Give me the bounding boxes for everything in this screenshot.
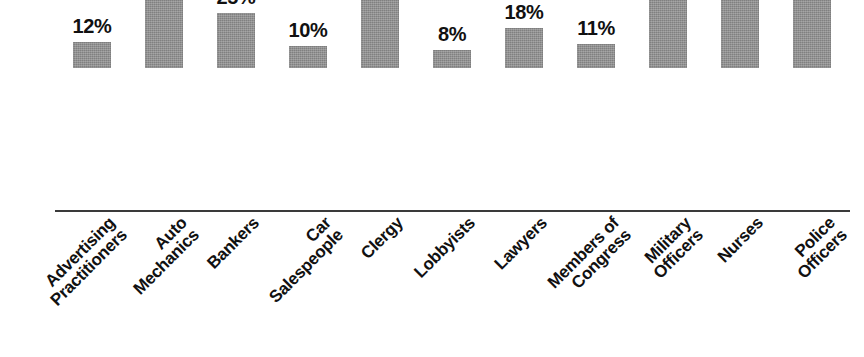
bar-group[interactable]: 42%: [361, 0, 399, 68]
bar[interactable]: [577, 44, 615, 68]
plot-area: 12%32%25%10%42%8%18%11%71%82%56%: [0, 0, 864, 214]
bar-value-label: 25%: [217, 0, 256, 7]
bar-value-label: 18%: [505, 2, 544, 22]
bar[interactable]: [361, 0, 399, 68]
bar-group[interactable]: 32%: [145, 0, 183, 68]
bar[interactable]: [217, 13, 255, 68]
bar-group[interactable]: 71%: [649, 0, 687, 68]
bar-value-label: 12%: [73, 16, 112, 36]
bar-group[interactable]: 8%: [433, 16, 471, 68]
bar[interactable]: [721, 0, 759, 68]
bar[interactable]: [145, 0, 183, 68]
bar-value-label: 8%: [438, 24, 466, 44]
bar-group[interactable]: 82%: [721, 0, 759, 68]
bar[interactable]: [73, 42, 111, 68]
bar-group[interactable]: 10%: [289, 12, 327, 68]
bar-group[interactable]: 11%: [577, 10, 615, 68]
bar-group[interactable]: 18%: [505, 0, 543, 68]
bar[interactable]: [793, 0, 831, 68]
bar[interactable]: [433, 50, 471, 68]
bar[interactable]: [649, 0, 687, 68]
x-axis-baseline: [55, 210, 850, 212]
bar-value-label: 10%: [289, 20, 328, 40]
bar[interactable]: [289, 46, 327, 68]
bar-chart: 12%32%25%10%42%8%18%11%71%82%56% Adverti…: [0, 0, 864, 357]
bar-group[interactable]: 12%: [73, 8, 111, 68]
bar[interactable]: [505, 28, 543, 68]
x-axis-category-labels: AdvertisingPractitionersAutoMechanicsBan…: [0, 214, 864, 357]
bar-group[interactable]: 25%: [217, 0, 255, 68]
bar-group[interactable]: 56%: [793, 0, 831, 68]
bar-value-label: 11%: [577, 18, 615, 38]
